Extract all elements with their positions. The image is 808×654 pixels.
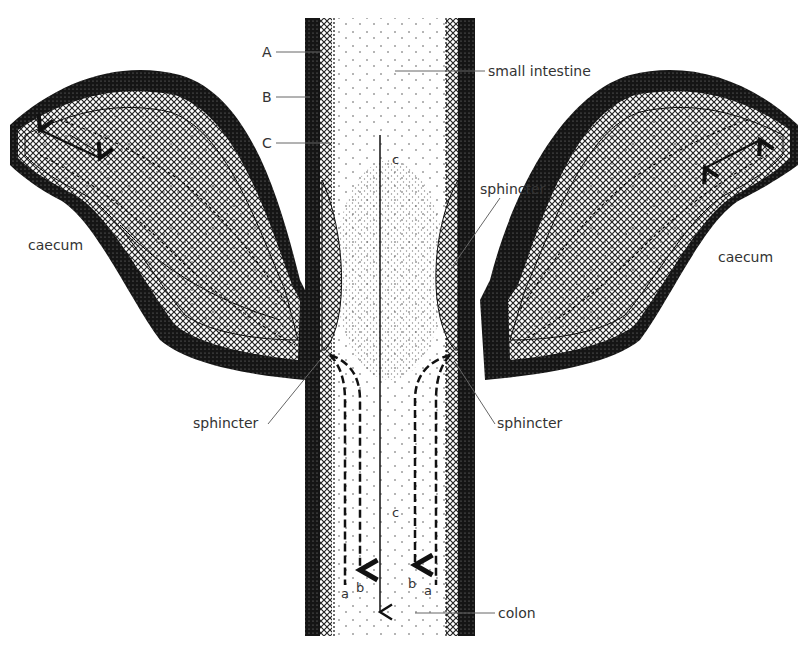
label-sphincter-lower-left: sphincter (193, 415, 259, 431)
label-caecum-left: caecum (28, 237, 83, 253)
label-layer-c: C (262, 135, 272, 151)
label-flow-a-left: a (341, 586, 349, 601)
label-flow-a-right: a (424, 583, 432, 598)
right-caecum (480, 70, 798, 380)
label-layer-b: B (262, 89, 272, 105)
label-flow-b-left: b (356, 580, 364, 595)
label-small-intestine: small intestine (488, 63, 591, 79)
label-flow-c-upper: c (392, 152, 399, 167)
label-flow-b-right: b (408, 576, 416, 591)
label-sphincter-lower-right: sphincter (497, 415, 563, 431)
label-sphincter-upper-right: sphincter (480, 181, 546, 197)
label-flow-c-lower: c (392, 505, 399, 520)
label-caecum-right: caecum (718, 249, 773, 265)
label-colon: colon (498, 605, 536, 621)
left-caecum (10, 70, 310, 380)
intestine-diagram: A B C small intestine caecum caecum sphi… (0, 0, 808, 654)
label-layer-a: A (262, 44, 272, 60)
